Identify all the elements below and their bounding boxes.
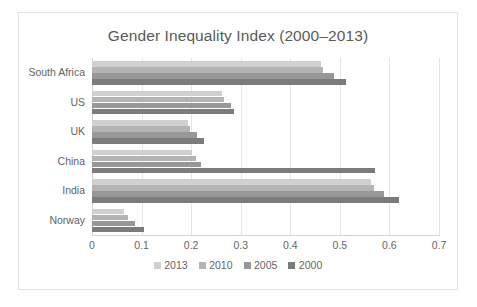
bar-2005 (92, 191, 384, 197)
bar-2005 (92, 132, 197, 138)
category-label: China (58, 147, 92, 177)
bar-group: China (92, 147, 439, 177)
x-axis-tick: 0.1 (134, 239, 149, 251)
legend-swatch-icon (244, 262, 251, 269)
bar-2010 (92, 185, 374, 191)
x-axis-tick: 0.4 (283, 239, 298, 251)
bar-group: India (92, 176, 439, 206)
bar-2000 (92, 138, 204, 144)
legend-label: 2013 (164, 259, 187, 271)
legend-item-2005[interactable]: 2005 (244, 259, 278, 271)
bar-2000 (92, 197, 399, 203)
bar-2013 (92, 209, 124, 215)
x-axis-tick: 0.7 (432, 239, 447, 251)
legend-item-2010[interactable]: 2010 (199, 259, 233, 271)
bar-2010 (92, 67, 323, 73)
bar-group: UK (92, 117, 439, 147)
bar-2000 (92, 79, 346, 85)
bar-2000 (92, 227, 144, 233)
bar-group: US (92, 88, 439, 118)
bar-2010 (92, 97, 224, 103)
legend-item-2013[interactable]: 2013 (154, 259, 188, 271)
bar-2013 (92, 120, 188, 126)
x-axis-tick: 0.5 (333, 239, 348, 251)
bar-2013 (92, 91, 222, 97)
chart-legend: 2013201020052000 (19, 259, 457, 271)
bar-2005 (92, 73, 334, 79)
bar-2010 (92, 215, 128, 221)
bar-group: South Africa (92, 58, 439, 88)
legend-label: 2010 (209, 259, 232, 271)
bar-2013 (92, 61, 321, 67)
bar-2010 (92, 156, 196, 162)
legend-label: 2005 (254, 259, 277, 271)
bar-2005 (92, 221, 135, 227)
x-axis-tick: 0.6 (382, 239, 397, 251)
chart-title: Gender Inequality Index (2000–2013) (19, 27, 457, 45)
bar-2005 (92, 103, 231, 109)
bar-2000 (92, 168, 375, 174)
plot-area: South AfricaUSUKChinaIndiaNorway (92, 58, 439, 235)
x-axis-tick-labels: 00.10.20.30.40.50.60.7 (92, 239, 439, 255)
chart-container: Gender Inequality Index (2000–2013) Sout… (18, 12, 458, 290)
category-label: UK (70, 117, 92, 147)
legend-swatch-icon (154, 262, 161, 269)
gridline (439, 58, 440, 235)
x-axis-line (92, 235, 440, 236)
x-axis-tick: 0.3 (233, 239, 248, 251)
bar-2013 (92, 179, 371, 185)
x-axis-tick: 0 (89, 239, 95, 251)
legend-item-2000[interactable]: 2000 (288, 259, 322, 271)
bar-2013 (92, 150, 192, 156)
category-label: US (70, 88, 92, 118)
category-label: Norway (49, 206, 92, 236)
bar-2000 (92, 109, 234, 115)
legend-swatch-icon (288, 262, 295, 269)
category-label: South Africa (28, 58, 92, 88)
bar-2005 (92, 162, 201, 168)
x-axis-tick: 0.2 (184, 239, 199, 251)
legend-label: 2000 (299, 259, 322, 271)
bar-group: Norway (92, 206, 439, 236)
category-label: India (62, 176, 92, 206)
bar-2010 (92, 126, 190, 132)
legend-swatch-icon (199, 262, 206, 269)
